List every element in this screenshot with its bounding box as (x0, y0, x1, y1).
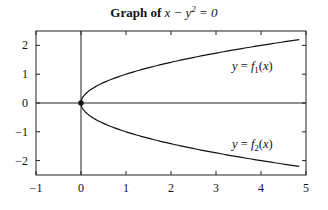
x-tick-label: 4 (258, 181, 264, 195)
y-tick-label: −2 (15, 154, 28, 168)
origin-point (78, 100, 84, 106)
y-tick-label: 2 (22, 38, 28, 52)
chart-plot: −1012345−2−1012 y = f1(x) y = f2(x) (0, 0, 328, 210)
x-tick-label: 1 (123, 181, 129, 195)
x-tick-label: 2 (168, 181, 174, 195)
x-tick-label: 3 (213, 181, 219, 195)
x-tick-label: 0 (78, 181, 84, 195)
y-tick-label: 0 (22, 96, 28, 110)
curve-f2 (81, 103, 299, 166)
label-f1: y = f1(x) (230, 59, 273, 75)
y-tick-label: −1 (15, 125, 28, 139)
x-tick-label: −1 (30, 181, 43, 195)
y-tick-label: 1 (22, 67, 28, 81)
label-f2: y = f2(x) (230, 137, 273, 153)
x-tick-label: 5 (303, 181, 309, 195)
